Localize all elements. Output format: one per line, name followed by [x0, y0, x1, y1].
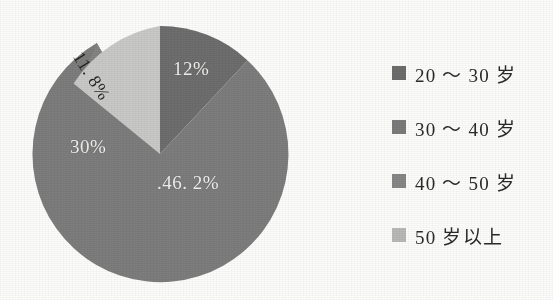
- legend-label-20-30: 20 ～ 30 岁: [415, 60, 516, 87]
- pie-chart-plot-area: 12% .46. 2% 30% 11. 8%: [0, 0, 330, 300]
- square-swatch-icon: [392, 228, 406, 242]
- legend-item-20-30[interactable]: 20 ～ 30 岁: [392, 46, 552, 100]
- legend-item-50-plus[interactable]: 50 岁以上: [392, 208, 552, 262]
- legend-item-30-40[interactable]: 30 ～ 40 岁: [392, 100, 552, 154]
- pie-chart-figure: 12% .46. 2% 30% 11. 8% 20 ～ 30 岁 30 ～ 40…: [0, 0, 553, 300]
- square-swatch-icon: [392, 120, 406, 134]
- square-swatch-icon: [392, 174, 406, 188]
- chart-legend: 20 ～ 30 岁 30 ～ 40 岁 40 ～ 50 岁 50 岁以上: [392, 46, 552, 264]
- legend-label-30-40: 30 ～ 40 岁: [415, 114, 516, 141]
- pie-chart-svg: [0, 0, 330, 300]
- legend-item-40-50[interactable]: 40 ～ 50 岁: [392, 154, 552, 208]
- square-swatch-icon: [392, 66, 406, 80]
- legend-label-40-50: 40 ～ 50 岁: [415, 168, 516, 195]
- legend-label-50-plus: 50 岁以上: [415, 222, 503, 249]
